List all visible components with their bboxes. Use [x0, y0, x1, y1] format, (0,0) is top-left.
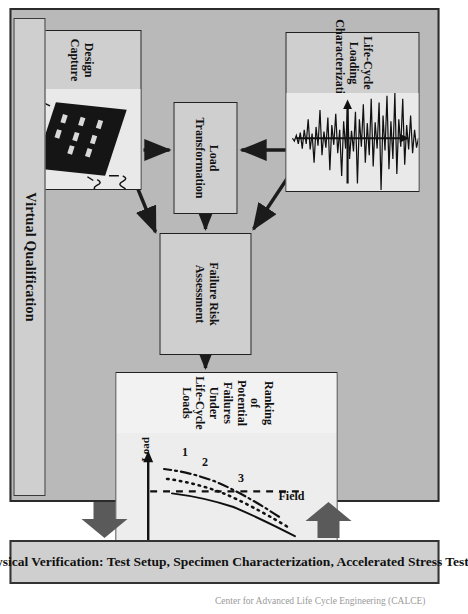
physical-verification-label: Physical Verification: Test Setup, Speci…	[0, 554, 468, 570]
box-failure-risk-assessment[interactable]: Failure Risk Assessment	[159, 233, 251, 355]
arrow-tail	[93, 502, 115, 521]
box-life-cycle-loading-characterization[interactable]: Life-Cycle Loading Characterization	[285, 32, 419, 192]
physical-verification-bar: Physical Verification: Test Setup, Speci…	[9, 540, 439, 584]
life-cycle-loading-signal-chart	[286, 93, 418, 191]
feedback-arrow-icon	[305, 502, 351, 538]
cropped-caption: Center for Advanced Life Cycle Engineeri…	[125, 596, 425, 614]
arrow-head	[305, 502, 351, 521]
box-load-transformation[interactable]: Load Transformation	[173, 102, 237, 214]
forward-arrow-icon	[81, 502, 127, 538]
curve-label-2: 2	[202, 455, 208, 470]
box-label: Life-Cycle Loading Characterization	[286, 33, 418, 93]
curve-label-1: 1	[182, 445, 188, 460]
signal-waveform-svg	[286, 93, 418, 191]
virtual-qualification-label-box: Virtual Qualification	[13, 18, 45, 496]
virtual-qualification-label: Virtual Qualification	[21, 192, 37, 321]
arrow-tail	[317, 520, 339, 538]
arrow-head	[81, 519, 127, 538]
cropped-caption-text: Center for Advanced Life Cycle Engineeri…	[214, 596, 425, 606]
box-label: Load Transformation	[191, 103, 219, 213]
curve-label-3: 3	[238, 471, 244, 486]
y-axis-label-load: Load	[138, 437, 150, 461]
virtual-qualification-panel: Life-Cycle Loading Characterization	[9, 8, 439, 502]
field-reference-label: Field	[278, 489, 304, 504]
box-label: Failure Risk Assessment	[191, 234, 219, 354]
box-label: Ranking of Potential Failures Under Life…	[116, 373, 336, 433]
